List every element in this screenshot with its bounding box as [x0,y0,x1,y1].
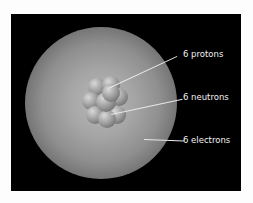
nucleus [82,76,130,128]
atom-diagram-panel: 6 protons 6 neutrons 6 electrons [11,14,241,191]
electrons-label: 6 electrons [183,135,230,145]
protons-label: 6 protons [183,49,223,59]
neutrons-label: 6 neutrons [183,92,229,102]
